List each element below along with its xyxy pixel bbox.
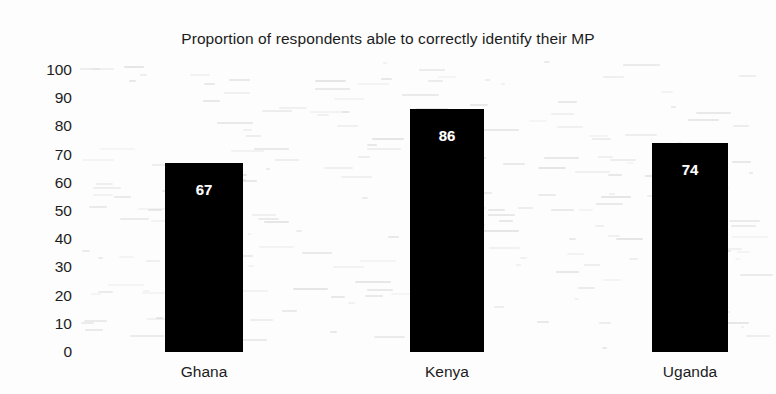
y-axis-tick-0: 0: [12, 344, 72, 360]
x-axis-label-uganda: Uganda: [612, 363, 768, 381]
x-axis-label-ghana: Ghana: [125, 363, 283, 381]
y-axis-tick-50: 50: [12, 203, 72, 219]
bar-value-kenya: 86: [410, 127, 484, 144]
bar-value-uganda: 74: [652, 161, 728, 178]
x-axis-label-kenya: Kenya: [370, 363, 524, 381]
y-axis-tick-90: 90: [12, 90, 72, 106]
y-axis-tick-70: 70: [12, 147, 72, 163]
chart-page: Proportion of respondents able to correc…: [0, 0, 776, 394]
y-axis-tick-60: 60: [12, 175, 72, 191]
y-axis-tick-20: 20: [12, 288, 72, 304]
y-axis-tick-10: 10: [12, 316, 72, 332]
y-axis-tick-30: 30: [12, 259, 72, 275]
y-axis-tick-100: 100: [12, 62, 72, 78]
y-axis-tick-80: 80: [12, 118, 72, 134]
plot-area: 100908070605040302010067Ghana86Kenya74Ug…: [0, 0, 776, 394]
y-axis-tick-40: 40: [12, 231, 72, 247]
bar-value-ghana: 67: [165, 181, 243, 198]
bar-kenya: [410, 109, 484, 352]
